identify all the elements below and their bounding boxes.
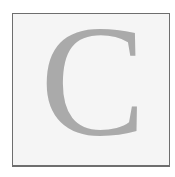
letter-glyph: C <box>13 13 169 160</box>
letter-tile: C <box>12 13 170 167</box>
